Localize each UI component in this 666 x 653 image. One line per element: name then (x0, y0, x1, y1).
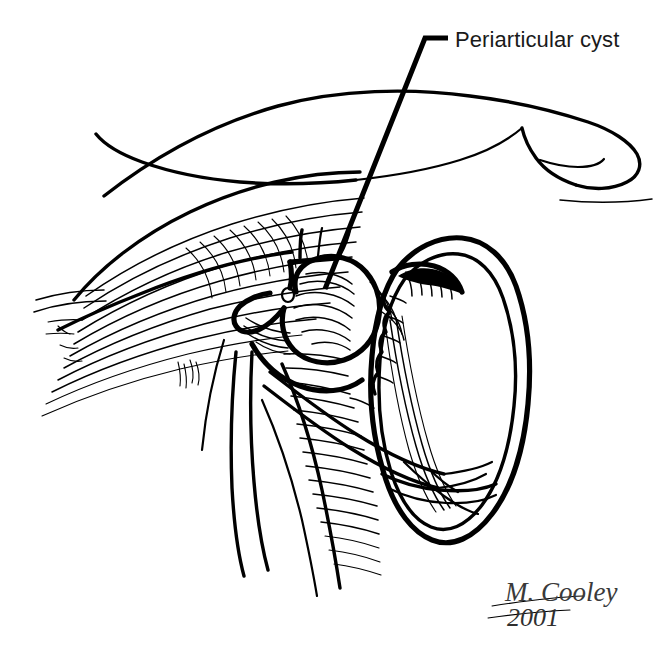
illustration-figure: Periarticular cyst M. Cooley 2001 (0, 0, 666, 653)
signature-year: 2001 (507, 603, 559, 632)
anatomical-line-drawing: Periarticular cyst M. Cooley 2001 (0, 0, 666, 653)
annotation-label-periarticular-cyst: Periarticular cyst (455, 27, 619, 52)
